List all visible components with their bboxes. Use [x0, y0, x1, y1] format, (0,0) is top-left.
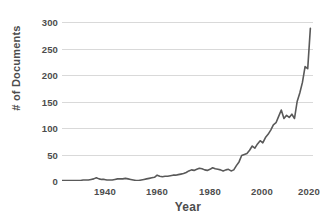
x-tick-label: 2000 — [251, 186, 273, 197]
y-axis-tick-labels: 300 250 200 150 100 50 0 — [20, 0, 58, 224]
y-tick-label: 150 — [24, 96, 58, 107]
x-tick-label: 1940 — [94, 186, 116, 197]
plot-area — [62, 22, 313, 181]
y-tick-label: 50 — [24, 149, 58, 160]
x-tick-label: 2020 — [298, 186, 320, 197]
chart-figure: # of Documents 300 250 200 150 100 50 0 … — [0, 0, 334, 224]
data-line-chart — [62, 22, 313, 181]
y-tick-label: 100 — [24, 123, 58, 134]
x-tick-label: 1960 — [146, 186, 168, 197]
y-tick-label: 250 — [24, 43, 58, 54]
series-line-documents — [62, 28, 310, 180]
x-tick-label: 1980 — [199, 186, 221, 197]
x-axis-title: Year — [62, 200, 314, 214]
y-tick-label: 200 — [24, 70, 58, 81]
y-tick-label: 0 — [24, 176, 58, 187]
y-tick-label: 300 — [24, 17, 58, 28]
